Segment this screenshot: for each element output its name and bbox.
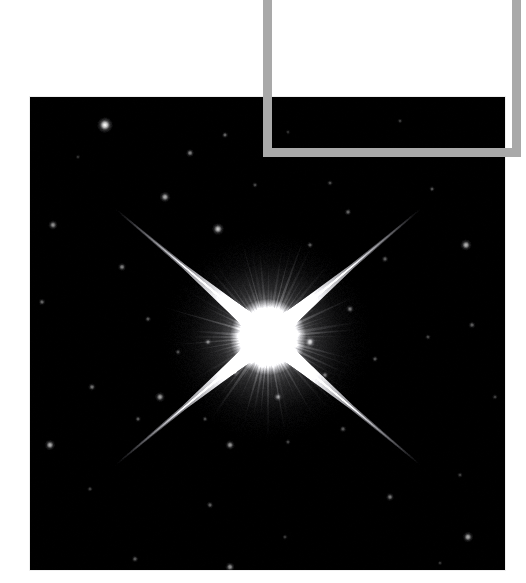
crop-overlay-left-bar (263, 0, 272, 157)
astronomical-photograph (30, 97, 505, 570)
crop-overlay-bottom-bar (263, 148, 521, 157)
crop-overlay-right-bar (512, 0, 521, 157)
star-field-render (30, 97, 505, 570)
image-canvas (0, 0, 526, 583)
